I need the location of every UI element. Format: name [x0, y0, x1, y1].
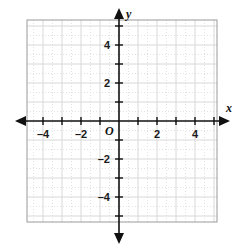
y-axis-label: y	[124, 7, 132, 21]
y-tick-label: –4	[98, 191, 111, 203]
x-axis-label: x	[225, 101, 232, 115]
y-tick-label: –2	[98, 153, 110, 165]
origin-label: O	[105, 124, 114, 138]
x-tick-label: –4	[37, 128, 50, 140]
coordinate-grid-svg: –4–22442–2–4 y x O	[0, 0, 243, 252]
y-tick-label: 4	[104, 39, 111, 51]
x-tick-label: 2	[154, 128, 160, 140]
coordinate-plane-figure: –4–22442–2–4 y x O	[0, 0, 243, 252]
x-tick-label: –2	[75, 128, 87, 140]
y-tick-label: 2	[104, 77, 110, 89]
x-tick-label: 4	[192, 128, 199, 140]
